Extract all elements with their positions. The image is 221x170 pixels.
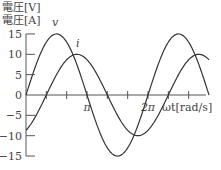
y-tick-label: −15: [0, 150, 22, 163]
y-axis-label-line-2: 電圧[A]: [2, 14, 41, 27]
y-tick-label: 10: [8, 48, 22, 61]
y-tick-label: 5: [15, 69, 22, 82]
y-tick-label: −10: [0, 130, 22, 143]
chart-svg: 電圧[V] 電圧[A] 151050−5−10−15 π2π v i ωt[ra…: [0, 0, 221, 170]
y-tick-label: 15: [8, 28, 22, 41]
y-axis-label: 電圧[V] 電圧[A]: [2, 1, 41, 27]
x-axis-label: ωt[rad/s]: [162, 101, 212, 114]
series-label-v: v: [52, 16, 59, 29]
axes: [26, 34, 206, 156]
y-tick-label: 0: [15, 89, 22, 102]
y-tick-label: −5: [6, 109, 22, 122]
series-label-i: i: [76, 37, 80, 50]
voltage-current-chart: 電圧[V] 電圧[A] 151050−5−10−15 π2π v i ωt[ra…: [0, 0, 221, 170]
y-axis-label-line-1: 電圧[V]: [2, 1, 41, 14]
